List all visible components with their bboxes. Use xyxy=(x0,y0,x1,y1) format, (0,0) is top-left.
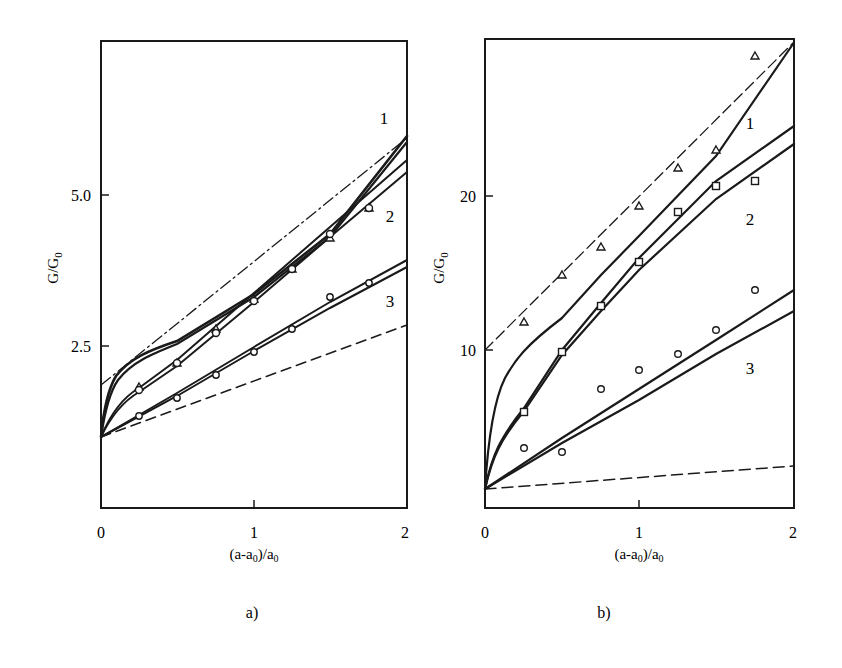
y-axis-label: G/G0 xyxy=(431,252,450,284)
data-point xyxy=(251,349,257,355)
y-axis-label: G/G0 xyxy=(45,252,64,284)
data-point xyxy=(597,243,605,250)
data-point xyxy=(559,449,566,456)
x-axis-label: (a-a0)/a0 xyxy=(614,546,663,564)
data-point xyxy=(558,271,566,278)
curve-label-3: 3 xyxy=(746,359,755,378)
data-point xyxy=(521,445,528,452)
data-point xyxy=(136,387,143,394)
data-point xyxy=(136,413,142,419)
data-point xyxy=(635,202,643,209)
data-point xyxy=(751,52,759,59)
series-line xyxy=(101,136,407,437)
data-point xyxy=(712,146,720,153)
series-line xyxy=(101,142,407,437)
panel-a-markers xyxy=(135,204,373,419)
x-axis-label: (a-a0)/a0 xyxy=(229,546,278,564)
data-point xyxy=(327,294,333,300)
panel-b: 20 10 0 1 2 G/G0 (a-a0)/a0 b) xyxy=(431,39,797,622)
panel-label: b) xyxy=(597,604,610,622)
x-tick-label: 1 xyxy=(250,524,258,541)
y-tick-label: 2.5 xyxy=(71,338,91,355)
data-point xyxy=(598,386,605,393)
y-tick-label: 20 xyxy=(460,188,476,205)
data-point xyxy=(213,372,219,378)
series-line xyxy=(485,126,794,489)
series-line xyxy=(485,42,794,350)
panel-a: 5.0 2.5 0 1 2 G/G0 (a-a0)/a0 a) xyxy=(45,41,409,622)
panel-a-curves xyxy=(101,136,407,437)
data-point xyxy=(675,209,682,216)
data-point xyxy=(174,360,181,367)
data-point xyxy=(752,178,759,185)
curve-label-3: 3 xyxy=(386,292,395,311)
data-point xyxy=(713,183,720,190)
x-tick-label: 1 xyxy=(635,524,643,541)
figure: 5.0 2.5 0 1 2 G/G0 (a-a0)/a0 a) xyxy=(0,0,842,668)
data-point xyxy=(598,303,605,310)
data-point xyxy=(366,280,372,286)
data-point xyxy=(636,259,643,266)
series-line xyxy=(485,44,793,489)
x-tick-label: 2 xyxy=(401,524,409,541)
curve-label-2: 2 xyxy=(746,210,755,229)
data-point xyxy=(289,326,295,332)
data-point xyxy=(251,298,258,305)
data-point xyxy=(521,409,528,416)
data-point xyxy=(752,287,759,294)
data-point xyxy=(327,231,334,238)
plot-frame xyxy=(101,41,407,508)
series-line xyxy=(485,466,794,489)
data-point xyxy=(675,351,682,358)
data-point xyxy=(559,349,566,356)
data-point xyxy=(674,164,682,171)
data-point xyxy=(213,330,220,337)
curve-label-2: 2 xyxy=(386,207,395,226)
x-tick-label: 0 xyxy=(481,524,489,541)
curve-label-1: 1 xyxy=(746,114,755,133)
x-tick-label: 0 xyxy=(97,524,105,541)
x-tick-label: 2 xyxy=(789,524,797,541)
y-tick-label: 5.0 xyxy=(71,187,91,204)
data-point xyxy=(366,205,373,212)
data-point xyxy=(289,266,296,273)
data-point xyxy=(713,327,720,334)
panel-label: a) xyxy=(246,604,258,622)
curve-label-1: 1 xyxy=(380,109,389,128)
data-point xyxy=(520,318,528,325)
data-point xyxy=(174,395,180,401)
data-point xyxy=(636,367,643,374)
series-line xyxy=(485,290,794,489)
y-tick-label: 10 xyxy=(460,342,476,359)
